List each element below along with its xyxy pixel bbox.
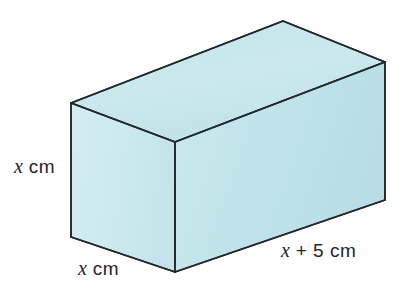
width-variable: x xyxy=(78,257,87,279)
length-number: 5 xyxy=(313,240,324,261)
length-variable: x xyxy=(281,239,290,261)
dimension-label-height: x cm xyxy=(14,156,55,176)
height-unit: cm xyxy=(29,156,55,177)
height-variable: x xyxy=(14,155,23,177)
dimension-label-length: x + 5 cm xyxy=(281,240,356,260)
length-unit: cm xyxy=(330,240,356,261)
length-operator: + xyxy=(296,240,308,261)
dimension-label-width: x cm xyxy=(78,258,119,278)
cuboid-figure: x cm x cm x + 5 cm xyxy=(0,0,402,292)
width-unit: cm xyxy=(93,258,119,279)
